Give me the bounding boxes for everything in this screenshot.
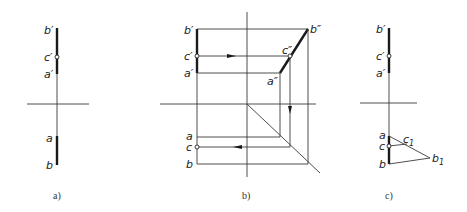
point-c (387, 144, 391, 148)
label-b-prime: b′ (44, 24, 54, 37)
caption-c: c) (385, 190, 393, 202)
label-b-prime: b′ (376, 23, 386, 36)
label-c: c (186, 141, 192, 154)
label-c1: c1 (403, 133, 414, 148)
label-b1: b1 (432, 152, 444, 167)
label-c-prime: c′ (184, 50, 193, 63)
label-c-prime: c′ (44, 51, 53, 64)
label-c: c (379, 140, 385, 153)
label-a-double-prime: a″ (267, 75, 279, 88)
point-c-prime (387, 54, 391, 58)
diagram-canvas: b′ c′ a′ a b a) (0, 0, 467, 212)
figure-b: b′ c′ a′ b″ c″ a″ a c b b) (160, 12, 322, 202)
caption-a: a) (53, 190, 61, 202)
label-c-prime: c′ (376, 50, 385, 63)
label-c-double-prime: c″ (282, 44, 293, 57)
figure-a: b′ c′ a′ a b a) (27, 24, 89, 202)
label-b-double-prime: b″ (310, 23, 322, 36)
point-c-prime (195, 54, 199, 58)
label-b: b (186, 158, 193, 171)
label-a-prime: a′ (184, 67, 194, 80)
arrow-down-icon (288, 106, 292, 114)
auxiliary-line-b-b1 (389, 158, 430, 164)
label-a-prime: a′ (44, 68, 54, 81)
constant-line-45deg (247, 104, 320, 173)
arrow-left-icon (233, 145, 242, 149)
label-b-prime: b′ (184, 24, 194, 37)
label-b: b (46, 159, 53, 172)
arrow-right-icon (227, 54, 236, 58)
point-c (195, 145, 199, 149)
caption-b: b) (242, 190, 250, 202)
figure-c: b′ c′ a′ a c b c1 b1 c) (360, 23, 444, 202)
point-c-prime (55, 55, 59, 59)
label-b: b (379, 158, 386, 171)
label-a-prime: a′ (376, 67, 386, 80)
label-a: a (46, 132, 53, 145)
